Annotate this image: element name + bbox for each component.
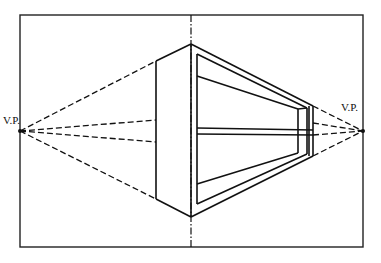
right-vanishing-lines (313, 106, 363, 156)
left-vp-label: V.P. (3, 114, 20, 126)
left-vanishing-lines (20, 61, 156, 199)
perspective-diagram: V.P. V.P. (0, 0, 381, 263)
box-left-face (156, 44, 191, 217)
right-vanishing-point (361, 129, 365, 133)
right-vp-label: V.P. (341, 101, 358, 113)
box-shelf (197, 128, 313, 135)
left-vanishing-point (18, 129, 22, 133)
box-right-face (191, 44, 313, 217)
